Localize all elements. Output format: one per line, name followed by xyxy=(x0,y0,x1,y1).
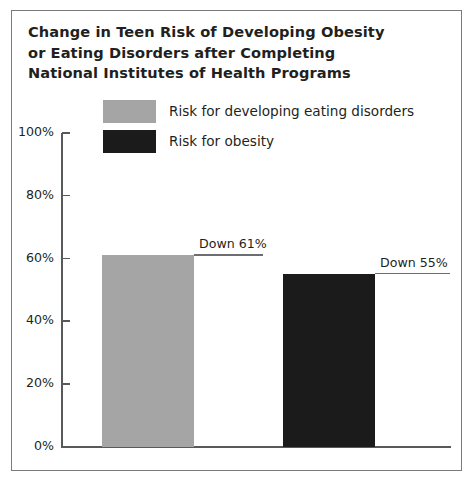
bar-obesity xyxy=(283,274,375,447)
bar-leader-line-obesity xyxy=(375,273,450,274)
y-tick-mark xyxy=(62,132,70,134)
y-axis-line xyxy=(61,133,63,447)
y-tick-mark xyxy=(62,383,70,385)
y-tick-label: 60% xyxy=(26,251,54,264)
y-tick-label: 20% xyxy=(26,377,54,390)
bar-leader-line-eating-disorders xyxy=(194,254,263,255)
bar-value-label-obesity: Down 55% xyxy=(380,257,448,270)
bar-value-label-eating-disorders: Down 61% xyxy=(199,238,267,251)
y-tick-label: 80% xyxy=(26,189,54,202)
y-tick-mark xyxy=(62,258,70,260)
y-tick-label: 100% xyxy=(18,126,54,139)
plot-area: 100% 80% 60% 40% 20% 0% Dow xyxy=(61,133,451,448)
legend-label-eating-disorders: Risk for developing eating disorders xyxy=(169,101,414,122)
y-tick-mark xyxy=(62,195,70,197)
bar-eating-disorders xyxy=(102,255,194,447)
chart-title: Change in Teen Risk of Developing Obesit… xyxy=(28,22,428,84)
chart-figure: Change in Teen Risk of Developing Obesit… xyxy=(0,0,476,482)
y-tick-label: 0% xyxy=(34,440,54,453)
y-tick-label: 40% xyxy=(26,314,54,327)
y-tick-mark xyxy=(62,320,70,322)
legend-swatch-eating-disorders xyxy=(103,100,156,123)
